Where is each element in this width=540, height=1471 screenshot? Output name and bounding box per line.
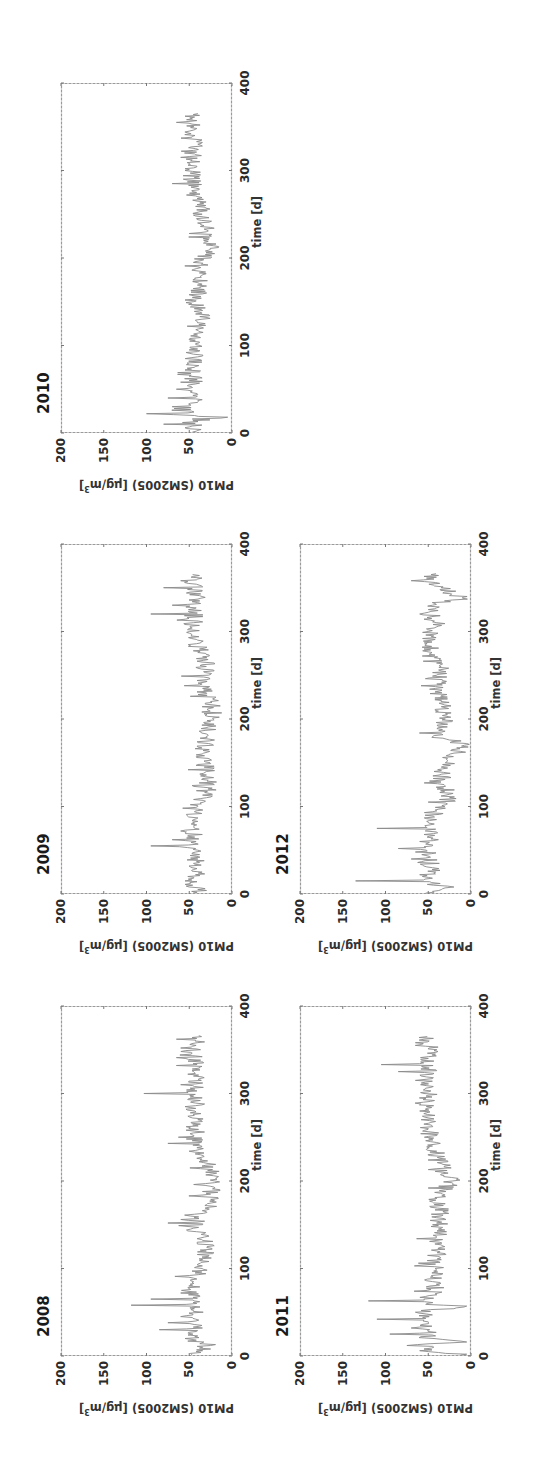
y-axis-title: PM10 (SM2005) [μg/m3] (79, 478, 234, 493)
y-axis-title-close: ] (318, 939, 323, 953)
pm10-figure: 20080100200300400050100150200time [d]PM1… (0, 0, 540, 1471)
pm10-series-line (131, 1036, 220, 1355)
panel-title: 2012 (274, 833, 292, 875)
x-axis-title: time [d] (489, 657, 503, 709)
panel-title: 2010 (35, 372, 53, 414)
x-tick-label: 200 (238, 245, 252, 270)
y-tick-label: 150 (336, 899, 350, 924)
y-tick-label: 200 (293, 899, 307, 924)
y-axis-title-superscript: 3 (84, 484, 90, 493)
panel-title: 2008 (35, 1295, 53, 1337)
x-tick-label: 300 (238, 158, 252, 183)
plot-area (300, 1006, 471, 1356)
plot-area (61, 83, 232, 433)
y-axis-title-text: PM10 (SM2005) [μg/m (329, 1401, 473, 1415)
x-tick-label: 0 (477, 890, 491, 898)
y-tick-label: 100 (140, 1361, 154, 1386)
x-tick-label: 400 (238, 70, 252, 95)
y-axis-title: PM10 (SM2005) [μg/m3] (318, 1401, 473, 1416)
y-axis-title: PM10 (SM2005) [μg/m3] (79, 1401, 234, 1416)
y-tick-label: 100 (379, 1361, 393, 1386)
x-tick-label: 200 (238, 1168, 252, 1193)
x-tick-label: 200 (477, 1168, 491, 1193)
y-axis-title: PM10 (SM2005) [μg/m3] (79, 939, 234, 954)
y-axis-title-text: PM10 (SM2005) [μg/m (90, 939, 234, 953)
pm10-series-line (151, 575, 222, 894)
y-tick-label: 0 (225, 1361, 239, 1369)
y-tick-label: 50 (182, 1361, 196, 1378)
axes-box (62, 1007, 232, 1356)
y-tick-label: 0 (225, 899, 239, 907)
y-tick-label: 200 (293, 1361, 307, 1386)
axes-box (62, 545, 232, 894)
x-tick-label: 100 (477, 794, 491, 819)
x-tick-label: 0 (477, 1352, 491, 1360)
y-axis-title-text: PM10 (SM2005) [μg/m (329, 939, 473, 953)
x-tick-label: 100 (238, 333, 252, 358)
y-axis-title-close: ] (79, 478, 84, 492)
x-tick-label: 100 (238, 794, 252, 819)
panel-2009: 20090100200300400050100150200time [d]PM1… (61, 544, 232, 894)
x-tick-label: 400 (477, 993, 491, 1018)
x-tick-label: 0 (238, 1352, 252, 1360)
x-tick-label: 300 (238, 1081, 252, 1106)
y-axis-title-close: ] (79, 1401, 84, 1415)
plot-area (300, 544, 471, 894)
x-tick-label: 200 (477, 706, 491, 731)
y-tick-label: 50 (182, 438, 196, 455)
y-tick-label: 200 (54, 899, 68, 924)
x-axis-title: time [d] (250, 657, 264, 709)
x-axis-title: time [d] (250, 1119, 264, 1171)
y-tick-label: 150 (97, 438, 111, 463)
x-axis-title: time [d] (489, 1119, 503, 1171)
y-axis-title-superscript: 3 (323, 945, 329, 954)
plot-area (61, 544, 232, 894)
y-tick-label: 100 (140, 899, 154, 924)
panel-2011: 20110100200300400050100150200time [d]PM1… (300, 1006, 471, 1356)
y-tick-label: 0 (464, 1361, 478, 1369)
pm10-series-line (356, 574, 470, 893)
panel-title: 2009 (35, 833, 53, 875)
panel-2010: 20100100200300400050100150200time [d]PM1… (61, 83, 232, 433)
x-tick-label: 300 (477, 619, 491, 644)
y-tick-label: 50 (182, 899, 196, 916)
y-tick-label: 0 (225, 438, 239, 446)
y-axis-title-superscript: 3 (84, 945, 90, 954)
y-tick-label: 200 (54, 1361, 68, 1386)
y-tick-label: 150 (336, 1361, 350, 1386)
y-axis-title-text: PM10 (SM2005) [μg/m (90, 1401, 234, 1415)
x-tick-label: 300 (238, 619, 252, 644)
y-axis-title: PM10 (SM2005) [μg/m3] (318, 939, 473, 954)
panel-title: 2011 (274, 1295, 292, 1337)
y-axis-title-superscript: 3 (84, 1407, 90, 1416)
y-tick-label: 0 (464, 899, 478, 907)
y-axis-title-text: PM10 (SM2005) [μg/m (90, 478, 234, 492)
x-tick-label: 0 (238, 890, 252, 898)
y-tick-label: 50 (421, 899, 435, 916)
x-tick-label: 100 (477, 1256, 491, 1281)
y-tick-label: 100 (140, 438, 154, 463)
panel-2012: 20120100200300400050100150200time [d]PM1… (300, 544, 471, 894)
x-tick-label: 0 (238, 429, 252, 437)
y-tick-label: 150 (97, 1361, 111, 1386)
x-tick-label: 400 (238, 531, 252, 556)
plot-area (61, 1006, 232, 1356)
x-tick-label: 400 (477, 531, 491, 556)
x-tick-label: 100 (238, 1256, 252, 1281)
y-axis-title-close: ] (318, 1401, 323, 1415)
panel-2008: 20080100200300400050100150200time [d]PM1… (61, 1006, 232, 1356)
x-tick-label: 400 (238, 993, 252, 1018)
axes-box (301, 1007, 471, 1356)
y-tick-label: 150 (97, 899, 111, 924)
pm10-series-line (147, 114, 228, 433)
x-axis-title: time [d] (250, 196, 264, 248)
y-axis-title-close: ] (79, 939, 84, 953)
pm10-series-line (368, 1037, 466, 1356)
y-tick-label: 200 (54, 438, 68, 463)
y-axis-title-superscript: 3 (323, 1407, 329, 1416)
y-tick-label: 50 (421, 1361, 435, 1378)
x-tick-label: 200 (238, 706, 252, 731)
y-tick-label: 100 (379, 899, 393, 924)
x-tick-label: 300 (477, 1081, 491, 1106)
